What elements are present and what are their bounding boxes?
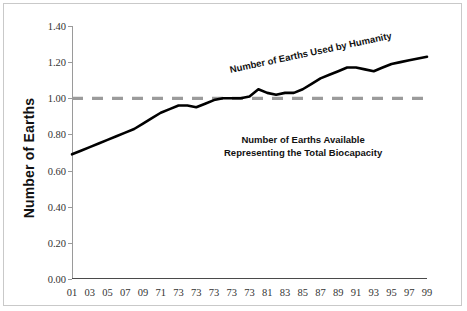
x-tick-label: 83 <box>280 287 291 298</box>
chart-figure: Number of Earths 0.000.200.400.600.801.0… <box>0 0 467 311</box>
x-tick-label: 91 <box>351 287 362 298</box>
x-tick-labels: 0103050709717373737373818385878991939597… <box>72 279 427 303</box>
x-tick-label: 73 <box>227 287 238 298</box>
annotation-earths-available-line1: Number of Earths Available <box>224 134 382 147</box>
x-tick-label: 73 <box>209 287 220 298</box>
x-tick-label: 97 <box>404 287 415 298</box>
y-tick-label: 1.20 <box>48 57 66 68</box>
x-tick-label: 89 <box>333 287 344 298</box>
y-tick-label: 1.40 <box>48 21 66 32</box>
plot-area: 0.000.200.400.600.801.001.201.40 0103050… <box>72 26 427 279</box>
x-tick-label: 71 <box>156 287 167 298</box>
x-tick-label: 73 <box>173 287 184 298</box>
x-tick-label: 07 <box>120 287 131 298</box>
x-tick-label: 05 <box>102 287 113 298</box>
y-axis-title: Number of Earths <box>21 83 37 233</box>
x-tick-label: 73 <box>191 287 202 298</box>
y-tick-label: 0.80 <box>48 129 66 140</box>
y-tick-label: 1.00 <box>48 93 66 104</box>
x-tick-label: 81 <box>262 287 273 298</box>
y-tick-label: 0.20 <box>48 237 66 248</box>
annotation-earths-available-line2: Representing the Total Biocapacity <box>224 147 382 160</box>
x-tick-label: 01 <box>67 287 78 298</box>
x-tick-label: 87 <box>315 287 326 298</box>
x-tick-label: 09 <box>138 287 149 298</box>
x-tick-label: 73 <box>244 287 255 298</box>
x-tick-label: 95 <box>386 287 397 298</box>
x-tick-label: 85 <box>298 287 309 298</box>
y-tick-label: 0.60 <box>48 165 66 176</box>
y-tick-label: 0.00 <box>48 274 66 285</box>
x-tick-label: 99 <box>422 287 433 298</box>
y-tick-label: 0.40 <box>48 201 66 212</box>
annotation-earths-available: Number of Earths Available Representing … <box>224 134 382 160</box>
x-tick-label: 93 <box>369 287 380 298</box>
x-tick-label: 03 <box>85 287 96 298</box>
